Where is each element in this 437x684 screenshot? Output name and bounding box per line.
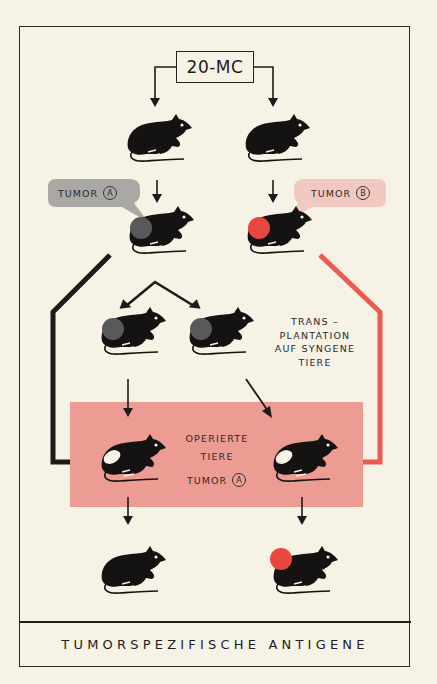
arrow-down-icon <box>152 194 162 203</box>
tumor-a-marker <box>130 217 152 239</box>
transplant-note: TRANS – PLANTATION AUF SYNGENE TIERE <box>262 315 368 369</box>
diagram-canvas <box>0 0 437 684</box>
arrow-down-icon <box>268 98 278 107</box>
mouse-icon <box>102 546 166 593</box>
tumor-a-label: TUMOR A <box>58 186 117 200</box>
mouse-icon <box>246 114 310 161</box>
operated-tumor-label: TUMOR A <box>187 473 246 487</box>
tumor-a-marker <box>190 318 212 340</box>
tumor-b-marker <box>270 548 292 570</box>
tumor-a-circle-marker: A <box>232 473 246 487</box>
tumor-b-circle-marker: B <box>356 186 370 200</box>
tumor-a-marker <box>102 318 124 340</box>
tumor-b-marker <box>248 217 270 239</box>
arrow-down-icon <box>268 194 278 203</box>
arrow-down-icon <box>150 98 160 107</box>
tumor-a-circle-marker: A <box>103 186 117 200</box>
tumor-a-text: TUMOR <box>58 188 98 199</box>
tumor-b-label: TUMOR B <box>311 186 370 200</box>
carcinogen-label: 20-MC <box>176 51 254 83</box>
operated-animals-label: OPERIERTE TIERE <box>172 430 262 466</box>
diagram-title: TUMORSPEZIFISCHE ANTIGENE <box>19 622 411 667</box>
transplant-branch-arrow <box>126 282 194 306</box>
mouse-icon <box>128 114 192 161</box>
arrow-down-icon <box>297 516 307 525</box>
arrow-down-icon <box>123 516 133 525</box>
tumor-b-text: TUMOR <box>311 188 351 199</box>
